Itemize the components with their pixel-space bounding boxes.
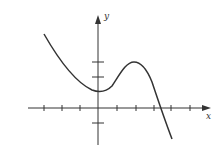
y-axis-label: y <box>104 11 109 21</box>
function-curve <box>44 34 172 139</box>
function-graph <box>0 0 223 162</box>
y-axis-arrow-icon <box>95 15 101 24</box>
x-axis-label: x <box>206 111 211 121</box>
